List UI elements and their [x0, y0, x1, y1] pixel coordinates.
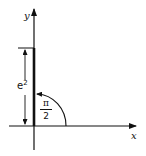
- y-axis-label: y: [24, 11, 30, 21]
- angle-numerator: π: [40, 98, 52, 108]
- fraction-bar: [40, 109, 52, 110]
- angle-denominator: 2: [40, 111, 52, 121]
- angle-label: π 2: [40, 98, 52, 121]
- diagram-canvas: [0, 0, 146, 156]
- magnitude-exponent: 2: [23, 79, 27, 87]
- x-axis-label: x: [131, 131, 137, 141]
- magnitude-label: e2: [17, 80, 28, 91]
